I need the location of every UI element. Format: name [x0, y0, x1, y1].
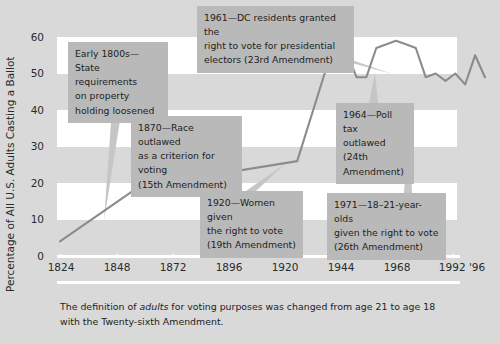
callout-1961: 1961—DC residents granted the right to v… — [197, 6, 354, 73]
callout-line: 1920—Women given — [207, 196, 296, 224]
callout-early-1800s: Early 1800s—State requirements on proper… — [68, 42, 168, 123]
callout-line: right to vote for presidential — [204, 39, 347, 53]
callout-1964: 1964—Poll tax outlawed (24th Amendment) — [336, 103, 414, 184]
callout-line: (19th Amendment) — [207, 238, 296, 252]
callout-line: (15th Amendment) — [138, 178, 235, 192]
callout-line: on property — [75, 89, 161, 103]
figure-card: 60 50 40 30 20 10 0 Percentage of All U.… — [0, 0, 500, 344]
callout-line: 1961—DC residents granted the — [204, 11, 347, 39]
footnote-pre: The definition of — [60, 301, 140, 312]
callout-line: as a criterion for voting — [138, 149, 235, 177]
callout-1870: 1870—Race outlawed as a criterion for vo… — [131, 116, 242, 197]
callout-line: given the right to vote — [334, 226, 439, 240]
footnote-emphasis: adults — [140, 301, 169, 312]
callout-line: 1964—Poll tax — [343, 108, 407, 136]
callout-line: 1971—18–21-year-olds — [334, 198, 439, 226]
callout-line: 1870—Race outlawed — [138, 121, 235, 149]
callout-line: electors (23rd Amendment) — [204, 53, 347, 67]
footnote: The definition of adults for voting purp… — [60, 299, 450, 329]
callout-line: outlawed (24th — [343, 136, 407, 164]
callout-1920: 1920—Women given the right to vote (19th… — [200, 191, 303, 258]
callout-line: Early 1800s—State — [75, 47, 161, 75]
callout-line: (26th Amendment) — [334, 240, 439, 254]
callout-line: requirements — [75, 75, 161, 89]
callout-line: the right to vote — [207, 224, 296, 238]
callout-line: Amendment) — [343, 165, 407, 179]
callout-1971: 1971—18–21-year-olds given the right to … — [327, 193, 446, 260]
